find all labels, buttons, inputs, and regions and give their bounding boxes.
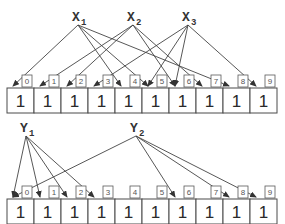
array-cell: 12 xyxy=(61,186,88,224)
array-cell: 16 xyxy=(169,75,196,113)
hash-source-x3: X3 xyxy=(182,10,196,28)
cell-index: 0 xyxy=(25,77,30,86)
cell-value: 1 xyxy=(205,203,214,222)
cell-index: 4 xyxy=(133,77,138,86)
cell-index: 9 xyxy=(268,77,273,86)
cell-index: 8 xyxy=(241,188,246,197)
source-subscript: 3 xyxy=(191,18,196,28)
source-label: Y xyxy=(20,121,28,136)
cell-value: 1 xyxy=(178,92,187,111)
bloom-filter-diagram: 1011121314151617181910111213141516171819… xyxy=(0,0,285,224)
cell-index: 0 xyxy=(25,188,30,197)
array-cell: 10 xyxy=(7,75,34,113)
cell-value: 1 xyxy=(124,203,133,222)
cell-value: 1 xyxy=(259,92,268,111)
array-cell: 16 xyxy=(169,186,196,224)
cell-value: 1 xyxy=(97,203,106,222)
cell-value: 1 xyxy=(43,92,52,111)
hash-source-x2: X2 xyxy=(127,10,141,28)
hash-source-y1: Y1 xyxy=(20,121,35,139)
array-cell: 15 xyxy=(142,186,169,224)
cell-index: 5 xyxy=(160,77,165,86)
source-label: X xyxy=(127,10,135,25)
cell-index: 3 xyxy=(106,77,111,86)
cell-index: 7 xyxy=(214,77,219,86)
array-cell: 10 xyxy=(7,186,34,224)
cell-value: 1 xyxy=(16,92,25,111)
cell-index: 6 xyxy=(187,188,192,197)
cell-value: 1 xyxy=(259,203,268,222)
array-cell: 11 xyxy=(34,186,61,224)
cell-index: 9 xyxy=(268,188,273,197)
cell-value: 1 xyxy=(232,203,241,222)
cell-value: 1 xyxy=(232,92,241,111)
array-cell: 19 xyxy=(250,186,277,224)
cell-index: 4 xyxy=(133,188,138,197)
source-subscript: 2 xyxy=(136,18,141,28)
array-cell: 14 xyxy=(115,186,142,224)
array-cell: 13 xyxy=(88,186,115,224)
cell-value: 1 xyxy=(151,92,160,111)
array-cell: 12 xyxy=(61,75,88,113)
cell-index: 2 xyxy=(79,77,84,86)
cell-value: 1 xyxy=(97,92,106,111)
cell-index: 7 xyxy=(214,188,219,197)
source-label: X xyxy=(72,10,80,25)
cell-value: 1 xyxy=(70,92,79,111)
cell-value: 1 xyxy=(205,92,214,111)
source-label: Y xyxy=(130,121,138,136)
source-subscript: 2 xyxy=(139,129,144,139)
cell-index: 6 xyxy=(187,77,192,86)
cell-index: 1 xyxy=(52,188,57,197)
cell-value: 1 xyxy=(43,203,52,222)
array-cell: 19 xyxy=(250,75,277,113)
cell-value: 1 xyxy=(16,203,25,222)
cell-index: 2 xyxy=(79,188,84,197)
cell-value: 1 xyxy=(124,92,133,111)
cell-value: 1 xyxy=(178,203,187,222)
cell-index: 8 xyxy=(241,77,246,86)
cell-value: 1 xyxy=(151,203,160,222)
cell-value: 1 xyxy=(70,203,79,222)
array-cell: 18 xyxy=(223,75,250,113)
source-subscript: 1 xyxy=(29,129,35,139)
array-cell: 14 xyxy=(115,75,142,113)
bottom-array: 10111213141516171819 xyxy=(7,186,277,224)
source-label: X xyxy=(182,10,190,25)
cell-index: 3 xyxy=(106,188,111,197)
array-cell: 17 xyxy=(196,75,223,113)
array-cell: 17 xyxy=(196,186,223,224)
array-cell: 15 xyxy=(142,75,169,113)
source-subscript: 1 xyxy=(81,18,87,28)
cell-index: 1 xyxy=(52,77,57,86)
hash-arrow xyxy=(136,136,175,197)
cell-index: 5 xyxy=(160,188,165,197)
array-cell: 18 xyxy=(223,186,250,224)
